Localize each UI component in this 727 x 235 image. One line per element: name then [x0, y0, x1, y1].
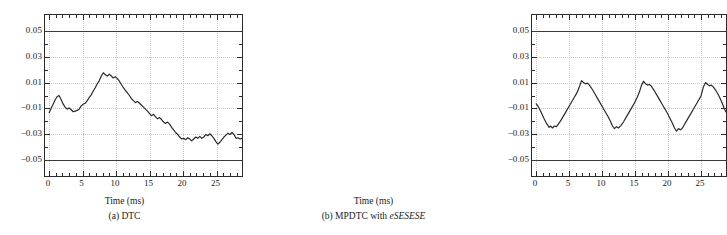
panel-b-x-tick-labels: 0510152025	[531, 179, 727, 193]
y-tick-label: 0.03	[513, 51, 529, 60]
panel-a-x-tick-labels: 0510152025	[44, 179, 243, 193]
panel-b-caption-emphasis: eSESESE	[389, 211, 425, 221]
x-tick-label: 0	[46, 179, 51, 188]
x-tick-label: 20	[662, 179, 671, 188]
y-tick-label: −0.05	[508, 155, 529, 164]
panel-a-plot-area	[44, 14, 243, 177]
y-tick-label: 0.01	[513, 77, 529, 86]
y-tick-label: 0.01	[26, 77, 42, 86]
x-tick-label: 5	[566, 179, 571, 188]
panel-a-caption: (a) DTC	[0, 211, 249, 221]
panel-a-x-axis-title: Time (ms)	[0, 196, 249, 206]
x-tick-label: 25	[695, 179, 704, 188]
x-tick-label: 5	[79, 179, 84, 188]
panel-a-dtc: 0.050.030.01−0.01−0.03−0.05 0510152025 T…	[0, 0, 249, 235]
x-tick-label: 25	[211, 179, 220, 188]
y-tick-label: −0.03	[508, 129, 529, 138]
x-tick-label: 15	[144, 179, 153, 188]
panel-b-y-tick-labels: 0.050.030.01−0.01−0.03−0.05	[493, 14, 529, 177]
x-tick-label: 10	[111, 179, 120, 188]
y-tick-label: 0.05	[513, 25, 529, 34]
y-tick-label: 0.05	[26, 25, 42, 34]
y-tick-label: −0.01	[21, 103, 42, 112]
panel-b-mpdtc: 0.050.030.01−0.01−0.03−0.05 0510152025 T…	[249, 0, 498, 235]
y-tick-label: −0.05	[21, 155, 42, 164]
y-tick-label: 0.03	[26, 51, 42, 60]
waveform-trace	[532, 15, 726, 176]
panel-b-x-axis-title: Time (ms)	[249, 196, 498, 206]
x-tick-label: 20	[178, 179, 187, 188]
panel-a-caption-text: (a) DTC	[109, 211, 141, 221]
x-tick-label: 0	[533, 179, 538, 188]
waveform-trace	[45, 15, 242, 176]
panel-b-plot-area	[531, 14, 727, 177]
panel-b-caption: (b) MPDTC with eSESESE	[249, 211, 498, 221]
y-tick-label: −0.03	[21, 129, 42, 138]
y-tick-label: −0.01	[508, 103, 529, 112]
x-tick-label: 15	[629, 179, 638, 188]
panel-a-y-tick-labels: 0.050.030.01−0.01−0.03−0.05	[6, 14, 42, 177]
x-tick-label: 10	[596, 179, 605, 188]
panel-b-caption-text: (b) MPDTC with	[322, 211, 390, 221]
